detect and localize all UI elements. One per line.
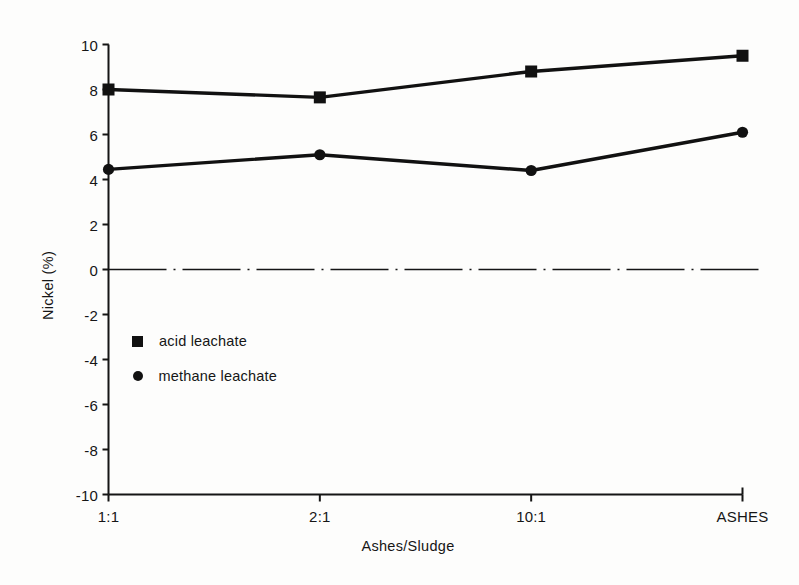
chart-axes — [103, 45, 743, 502]
y-tick-label: 2 — [44, 216, 98, 233]
y-tick-label: -8 — [44, 441, 98, 458]
chart-plot-area — [0, 0, 799, 585]
y-tick-label: -10 — [44, 486, 98, 503]
legend-item-acid-leachate: acid leachate — [132, 333, 247, 349]
chart-series-group — [103, 50, 749, 176]
legend-item-methane-leachate: methane leachate — [132, 368, 277, 384]
y-tick-label: -6 — [44, 396, 98, 413]
y-tick-label: 0 — [44, 261, 98, 278]
y-tick-label: 10 — [44, 36, 98, 53]
y-tick-label: -4 — [44, 351, 98, 368]
x-tick-label: 10:1 — [516, 508, 546, 525]
x-tick-label: 1:1 — [98, 508, 119, 525]
chart-figure: Nickel (%) 1086420-2-4-6-8-10 1:12:110:1… — [0, 0, 799, 585]
y-tick-label: 6 — [44, 126, 98, 143]
legend-item-label: methane leachate — [159, 368, 277, 384]
legend-item-label: acid leachate — [159, 333, 247, 349]
y-tick-label: 8 — [44, 81, 98, 98]
y-tick-label: -2 — [44, 306, 98, 323]
x-tick-label: ASHES — [717, 508, 769, 525]
x-tick-label: 2:1 — [309, 508, 330, 525]
y-tick-label: 4 — [44, 171, 98, 188]
circle-marker-icon — [133, 371, 143, 381]
x-axis-title: Ashes/Sludge — [361, 538, 454, 554]
square-marker-icon — [132, 336, 143, 347]
